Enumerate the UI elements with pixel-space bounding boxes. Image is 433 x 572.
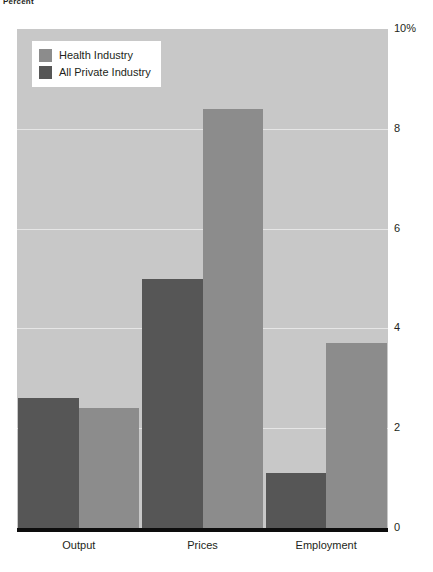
x-axis-baseline <box>17 528 388 532</box>
bar-employment-health-industry <box>266 473 327 528</box>
bar-output-all-private-industry <box>79 408 140 528</box>
legend-swatch-icon <box>39 66 52 79</box>
legend-item-label: All Private Industry <box>59 66 151 79</box>
x-tick-label: Prices <box>141 539 265 552</box>
bar-prices-health-industry <box>142 279 203 529</box>
y-tick-label: 0 <box>394 522 400 533</box>
bar-prices-all-private-industry <box>203 109 264 528</box>
y-axis-caption: Percent <box>3 0 34 7</box>
y-tick-label: 8 <box>394 123 400 134</box>
legend-item: Health Industry <box>39 47 151 64</box>
legend-item: All Private Industry <box>39 64 151 81</box>
x-tick-label: Output <box>17 539 141 552</box>
legend-swatch-icon <box>39 49 52 62</box>
x-tick-label: Employment <box>264 539 388 552</box>
chart-legend: Health Industry All Private Industry <box>32 41 161 87</box>
y-tick-label: 10% <box>394 23 416 34</box>
chart-plot-area <box>17 29 388 528</box>
y-tick-label: 4 <box>394 322 400 333</box>
legend-item-label: Health Industry <box>59 49 133 62</box>
bar-output-health-industry <box>18 398 79 528</box>
y-tick-label: 2 <box>394 422 400 433</box>
y-tick-label: 6 <box>394 223 400 234</box>
bar-employment-all-private-industry <box>326 343 387 528</box>
